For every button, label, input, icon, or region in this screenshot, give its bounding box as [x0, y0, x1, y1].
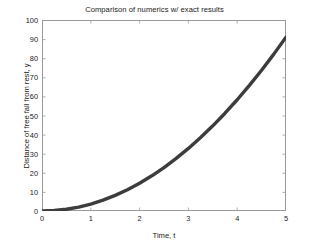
y-tick-label: 30 [30, 149, 38, 158]
y-tick-label: 90 [30, 35, 38, 44]
x-tick-label: 4 [235, 214, 239, 223]
y-tick-label: 20 [30, 168, 38, 177]
y-axis-label-container: Distance of free fall from rest, y [10, 20, 20, 211]
data-curve-layer [42, 20, 286, 211]
x-tick-label: 3 [186, 214, 190, 223]
y-tick-label: 60 [30, 92, 38, 101]
series-line-numerics [42, 37, 286, 211]
y-tick-label: 10 [30, 187, 38, 196]
y-tick-label: 70 [30, 73, 38, 82]
plot-axes: 0102030405060708090100 012345 [42, 20, 286, 211]
y-tick-label: 80 [30, 54, 38, 63]
y-tick-label: 40 [30, 130, 38, 139]
tick-marks [42, 20, 286, 211]
x-tick-label: 1 [89, 214, 93, 223]
figure-canvas: Comparison of numerics w/ exact results … [0, 0, 309, 250]
x-tick-label: 5 [284, 214, 288, 223]
x-axis-label: Time, t [42, 231, 286, 240]
y-tick-label: 100 [26, 16, 38, 25]
x-tick-label: 2 [138, 214, 142, 223]
chart-title: Comparison of numerics w/ exact results [0, 5, 309, 14]
x-tick-label: 0 [40, 214, 44, 223]
y-tick-label: 50 [30, 111, 38, 120]
y-tick-label: 0 [34, 207, 38, 216]
